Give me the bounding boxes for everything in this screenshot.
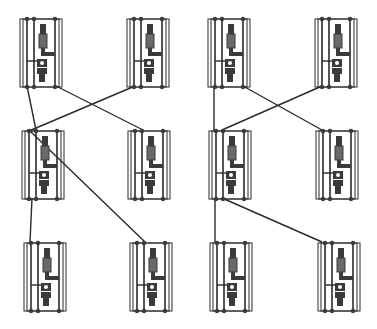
connection-line — [29, 86, 135, 131]
terminal-dot — [133, 197, 137, 201]
circuit-layout-diagram — [0, 0, 377, 329]
terminal-dot — [160, 17, 164, 21]
component-tab — [155, 276, 165, 280]
resistor-component — [43, 258, 51, 272]
component-cap — [335, 24, 341, 34]
transistor-block-lower — [225, 68, 235, 74]
component-stem — [43, 160, 47, 168]
terminal-dot — [330, 309, 334, 313]
terminal-dot — [242, 197, 246, 201]
component-tab — [235, 276, 245, 280]
component-stem — [336, 48, 340, 56]
circuit-cell-r2c1 — [22, 129, 64, 201]
resistor-component — [227, 34, 235, 48]
terminal-dot — [351, 309, 355, 313]
terminal-dot — [327, 17, 331, 21]
component-tab — [49, 276, 59, 280]
terminal-dot — [160, 85, 164, 89]
transistor-block-lower — [41, 292, 51, 298]
transistor-node — [44, 285, 48, 289]
terminal-dot — [55, 197, 59, 201]
terminal-dot — [213, 17, 217, 21]
transistor-node — [148, 173, 152, 177]
circuit-cell-r3c3 — [210, 241, 252, 313]
circuit-cell-r1c3 — [208, 17, 250, 89]
terminal-dot — [214, 197, 218, 201]
transistor-node — [42, 173, 46, 177]
terminal-dot — [34, 197, 38, 201]
terminal-dot — [57, 241, 61, 245]
terminal-dot — [29, 309, 33, 313]
terminal-dot — [53, 85, 57, 89]
terminal-dot — [57, 309, 61, 313]
circuit-cell-r2c3 — [209, 129, 251, 201]
resistor-component — [149, 258, 157, 272]
component-stem — [45, 272, 49, 280]
terminal-dot — [320, 85, 324, 89]
circuit-cell-r3c1 — [24, 241, 66, 313]
component-stem — [148, 48, 152, 56]
component-tab — [233, 52, 243, 56]
connection-line — [56, 86, 143, 130]
component-cap — [336, 136, 342, 146]
terminal-dot — [330, 241, 334, 245]
terminal-dot — [32, 85, 36, 89]
terminal-dot — [36, 309, 40, 313]
component-cap — [148, 136, 154, 146]
terminal-dot — [328, 197, 332, 201]
circuit-cell-r2c4 — [316, 129, 358, 201]
transistor-block-lower — [227, 292, 237, 298]
component-foot — [335, 186, 341, 194]
terminal-dot — [243, 309, 247, 313]
circuit-cell-r1c2 — [127, 17, 169, 89]
terminal-dot — [135, 309, 139, 313]
transistor-node — [336, 173, 340, 177]
transistor-block-lower — [145, 180, 155, 186]
terminal-dot — [214, 129, 218, 133]
resistor-component — [41, 146, 49, 160]
component-stem — [41, 48, 45, 56]
terminal-dot — [243, 241, 247, 245]
component-cap — [230, 248, 236, 258]
transistor-node — [40, 61, 44, 65]
component-tab — [234, 164, 244, 168]
transistor-block-lower — [335, 292, 345, 298]
transistor-node — [230, 285, 234, 289]
transistor-block-lower — [147, 292, 157, 298]
terminal-dot — [140, 197, 144, 201]
circuit-cell-r3c4 — [318, 241, 360, 313]
component-foot — [227, 74, 233, 82]
terminal-dot — [133, 129, 137, 133]
transistor-block-lower — [333, 180, 343, 186]
terminal-dot — [139, 85, 143, 89]
terminal-dot — [241, 17, 245, 21]
component-foot — [146, 74, 152, 82]
terminal-dot — [321, 129, 325, 133]
circuit-cell-r2c2 — [128, 129, 170, 201]
terminal-dot — [132, 17, 136, 21]
terminal-dot — [27, 197, 31, 201]
terminal-dot — [242, 129, 246, 133]
component-cap — [150, 248, 156, 258]
terminal-dot — [349, 129, 353, 133]
terminal-dot — [213, 85, 217, 89]
terminal-dot — [221, 129, 225, 133]
transistor-node — [147, 61, 151, 65]
component-cap — [228, 24, 234, 34]
component-foot — [39, 74, 45, 82]
resistor-component — [334, 34, 342, 48]
terminal-dot — [140, 129, 144, 133]
terminal-dot — [215, 309, 219, 313]
terminal-dot — [328, 129, 332, 133]
resistor-component — [337, 258, 345, 272]
terminal-dot — [163, 241, 167, 245]
cell-grid — [20, 17, 360, 313]
terminal-dot — [135, 241, 139, 245]
transistor-node — [338, 285, 342, 289]
component-foot — [337, 298, 343, 306]
terminal-dot — [222, 309, 226, 313]
resistor-component — [146, 34, 154, 48]
component-foot — [228, 186, 234, 194]
transistor-node — [335, 61, 339, 65]
terminal-dot — [25, 17, 29, 21]
